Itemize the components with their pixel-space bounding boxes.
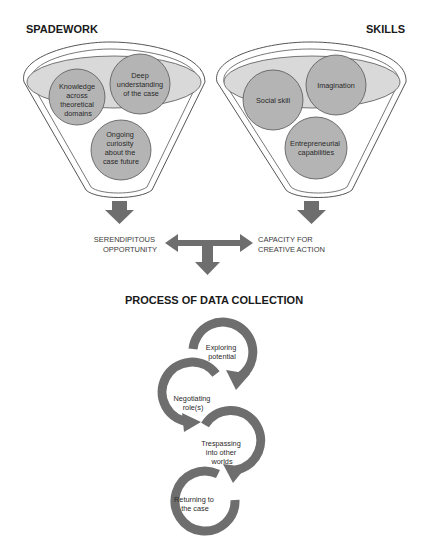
down-arrow-spadework [105, 201, 134, 224]
label-trespassing: Trespassing into other worlds [201, 439, 243, 466]
down-arrow-skills [297, 201, 326, 224]
spadework-title: SPADEWORK [26, 23, 98, 35]
arrowhead-negotiating [182, 413, 201, 432]
label-capacity-creative-action: CAPACITY FOR CREATIVE ACTION [258, 235, 325, 254]
skills-funnel: SKILLS Social skill Imagination Entrepre… [217, 23, 407, 198]
label-serendipitous-opportunity: SERENDIPITOUS OPPORTUNITY [94, 235, 157, 254]
arrowhead-trespassing [223, 464, 246, 483]
label-exploring-potential: Exploring potential [206, 343, 238, 361]
label-knowledge: Knowledge across theoretical domains [59, 82, 97, 118]
label-negotiating-roles: Negotiating role(s) [174, 394, 213, 412]
cycle-arrow-negotiating [162, 362, 216, 422]
label-ongoing-curiosity: Ongoing curiosity about the case future [103, 130, 139, 166]
t-arrow [165, 234, 253, 275]
spadework-funnel: SPADEWORK Knowledge across theoretical d… [24, 23, 205, 198]
label-social-skill: Social skill [256, 96, 290, 105]
skills-title: SKILLS [366, 23, 405, 35]
label-imagination: Imagination [317, 81, 355, 90]
process-title: PROCESS OF DATA COLLECTION [125, 294, 303, 306]
label-returning: Returning to the case [174, 495, 216, 513]
diagram-canvas: SPADEWORK Knowledge across theoretical d… [0, 0, 428, 560]
